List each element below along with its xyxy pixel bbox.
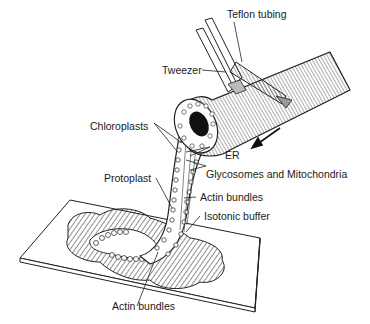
label-tweezer: Tweezer (162, 64, 202, 76)
label-actin-bundles-upper: Actin bundles (200, 191, 263, 203)
label-actin-bundles-lower: Actin bundles (112, 300, 175, 312)
label-chloroplasts: Chloroplasts (90, 120, 148, 132)
diagram-illustration (0, 0, 370, 324)
label-isotonic-buffer: Isotonic buffer (204, 210, 270, 222)
label-glycosomes-mitochondria: Glycosomes and Mitochondria (206, 168, 347, 180)
label-er: ER (225, 149, 240, 161)
label-protoplast: Protoplast (104, 172, 151, 184)
label-teflon-tubing: Teflon tubing (227, 8, 287, 20)
